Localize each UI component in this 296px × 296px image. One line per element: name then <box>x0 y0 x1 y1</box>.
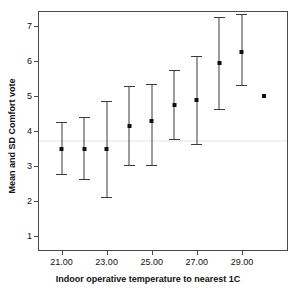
error-bar <box>151 84 152 166</box>
y-axis-tick-label: 6 <box>27 57 32 66</box>
mean-marker <box>240 50 244 54</box>
plot-area <box>38 11 288 251</box>
error-bar-cap-upper <box>169 70 180 71</box>
x-axis: 21.0023.0025.0027.0029.00 <box>38 251 288 259</box>
y-axis-tick-label: 7 <box>27 22 32 31</box>
error-bar-cap-upper <box>124 86 135 87</box>
data-point <box>262 94 266 98</box>
error-bar <box>196 56 197 145</box>
y-axis-tick-label: 4 <box>27 127 32 136</box>
plot-inner <box>39 12 287 250</box>
error-bar-cap-lower <box>236 85 247 86</box>
y-axis-tick-label: 5 <box>27 92 32 101</box>
error-bar-cap-lower <box>169 139 180 140</box>
error-bar-cap-upper <box>191 56 202 57</box>
x-axis-tick <box>62 251 63 255</box>
x-axis-tick <box>107 251 108 255</box>
error-bar-cap-lower <box>101 197 112 198</box>
x-axis-tick-label: 25.00 <box>140 257 163 267</box>
mean-marker <box>82 147 86 151</box>
error-bar-cap-lower <box>146 165 157 166</box>
mean-marker <box>105 147 109 151</box>
error-bar <box>61 122 62 175</box>
mean-marker <box>127 124 131 128</box>
x-axis-tick-label: 23.00 <box>95 257 118 267</box>
x-axis-tick-label: 29.00 <box>231 257 254 267</box>
mean-marker <box>150 119 154 123</box>
error-bar-cap-upper <box>214 17 225 18</box>
error-bar-cap-upper <box>146 84 157 85</box>
error-bar <box>174 70 175 140</box>
x-axis-title: Indoor operative temperature to nearest … <box>0 274 296 285</box>
x-axis-tick <box>242 251 243 255</box>
error-bar-cap-lower <box>191 144 202 145</box>
x-axis-tick <box>197 251 198 255</box>
reference-line <box>39 140 287 142</box>
error-bar <box>84 117 85 180</box>
error-bar <box>219 17 220 110</box>
chart-title <box>0 0 296 5</box>
mean-marker <box>195 98 199 102</box>
mean-marker <box>172 103 176 107</box>
y-axis-title: Mean and SD Comfort vote <box>7 51 17 221</box>
error-bar-cap-upper <box>101 101 112 102</box>
x-axis-tick-label: 27.00 <box>186 257 209 267</box>
mean-marker <box>217 61 221 65</box>
error-bar-cap-lower <box>124 165 135 166</box>
x-axis-tick-label: 21.00 <box>50 257 73 267</box>
error-bar-cap-lower <box>214 109 225 110</box>
error-bar-cap-lower <box>56 174 67 175</box>
y-axis-tick-label: 1 <box>27 232 32 241</box>
mean-marker <box>60 147 64 151</box>
error-bar-cap-upper <box>236 14 247 15</box>
error-bar-cap-lower <box>79 179 90 180</box>
y-axis-tick-label: 2 <box>27 197 32 206</box>
error-bar <box>241 14 242 86</box>
chart-container: 1234567 Mean and SD Comfort vote 21.0023… <box>0 0 296 296</box>
y-axis-tick-label: 3 <box>27 162 32 171</box>
error-bar <box>106 101 107 197</box>
error-bar-cap-upper <box>56 122 67 123</box>
error-bar-cap-upper <box>79 117 90 118</box>
x-axis-tick <box>152 251 153 255</box>
error-bar <box>129 86 130 167</box>
